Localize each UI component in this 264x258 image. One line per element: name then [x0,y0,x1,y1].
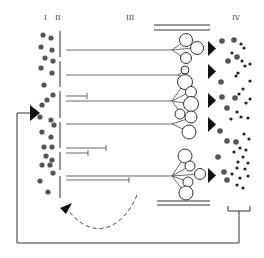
large-particle-dot [234,54,240,60]
cell-dot [38,65,43,70]
small-particle-dot [248,62,251,65]
cell-dot [41,82,46,87]
cell-dot [48,117,53,122]
large-particle-dot [219,38,225,44]
large-particle-dot [217,128,223,134]
cell-dot [48,134,53,139]
axon-lines [66,50,178,183]
large-particle-dot [224,177,230,183]
small-particle-dot [235,110,238,113]
column-I-cells [37,32,56,194]
cell-dot [49,70,54,75]
column-IV-particles [215,37,251,189]
cell-dot [47,162,52,167]
small-particle-dot [242,46,245,49]
arrow-right-icon [208,117,216,132]
label-column-III: III [126,14,135,22]
label-column-I: I [44,14,47,22]
small-particle-dot [240,59,243,62]
small-particle-dot [236,160,239,163]
large-particle-dot [219,94,225,100]
neuron-diagram: I II III IV [0,0,264,258]
cell-dot [50,58,55,63]
arrow-right-icon [208,93,216,108]
cell-dot [40,32,45,37]
terminal-cluster-1 [172,34,204,64]
cell-dot [39,162,44,167]
cell-dot [50,170,55,175]
cell-dot [44,97,49,102]
cell-dot [37,178,42,183]
small-particle-dot [248,79,251,82]
small-particle-dot [246,116,249,119]
large-particle-dot [221,169,227,175]
large-particle-dot [225,58,231,64]
cell-dot [48,35,53,40]
small-particle-dot [241,87,244,90]
top-double-bar [154,25,210,30]
bottom-double-bar [157,201,210,205]
arrow-right-icon [208,64,216,79]
large-particle-dot [224,138,230,144]
cell-dot [38,44,43,49]
cell-dot [49,144,54,149]
small-particle-dot [246,174,249,177]
small-particle-dot [244,101,247,104]
small-particle-dot [244,148,247,151]
arrow-right-icon [208,41,216,56]
label-column-II: II [55,14,61,22]
large-particle-dot [215,154,221,160]
small-particle-dot [243,64,246,67]
small-particle-dot [236,71,239,74]
small-particle-dot [232,150,235,153]
large-particle-dot [233,139,239,145]
small-particle-dot [241,186,244,189]
cell-dot [39,102,44,107]
small-particle-dot [238,146,241,149]
cell-dot [41,144,46,149]
cell-dot [39,129,44,134]
small-particle-dot [234,74,237,77]
large-particle-dot [231,37,237,43]
cell-dot [51,122,56,127]
small-particle-dot [247,137,250,140]
small-particle-dot [248,97,251,100]
blocked-axon-2 [66,145,106,151]
label-column-IV: IV [232,14,241,22]
cell-dot [50,92,55,97]
small-particle-dot [238,176,241,179]
cell-dot [45,189,50,194]
small-particle-dot [229,117,232,120]
dashed-return-arrow [60,195,137,229]
cell-dot [43,153,48,158]
small-particle-dot [230,172,233,175]
blocked-axon-4 [66,177,129,183]
large-particle-dot [218,79,224,85]
blocked-axon-1 [66,93,87,99]
small-particle-dot [235,183,238,186]
small-particle-dot [239,115,242,118]
small-particle-dot [241,155,244,158]
small-particle-dot [230,51,233,54]
cell-dot [49,47,54,52]
large-particle-dot [224,105,230,111]
small-particle-dot [243,167,246,170]
terminal-cluster-5 [172,149,206,200]
small-particle-dot [237,92,240,95]
arrow-right-icon [208,168,216,183]
cell-dot [37,114,42,119]
cell-dot [42,55,47,60]
small-particle-dot [239,42,242,45]
small-particle-dot [242,132,245,135]
release-arrowheads [208,41,216,183]
collection-bracket [228,206,250,211]
cell-dot [49,157,54,162]
small-particle-dot [246,161,249,164]
blocked-axon-3 [66,150,88,156]
small-particle-dot [235,166,238,169]
large-particle-dot [232,95,238,101]
